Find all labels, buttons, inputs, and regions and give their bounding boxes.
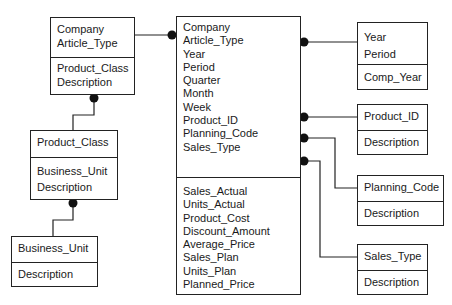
measure-attribute: Product_Cost (183, 212, 294, 225)
attribute: Description (37, 179, 111, 195)
entity-article-type[interactable]: Company Article_Type Product_Class Descr… (50, 17, 135, 95)
entity-attributes: Description (358, 270, 427, 293)
entity-attributes: Description (358, 201, 443, 224)
connector-article-type-product-class (73, 98, 94, 130)
key-attribute: Product_ID (183, 114, 294, 127)
key-attribute: Period (183, 61, 294, 74)
entity-measures: Sales_Actual Units_Actual Product_Cost D… (177, 177, 300, 294)
key-attribute: Year (183, 48, 294, 61)
key-attribute: Article_Type (183, 34, 294, 47)
connector-fact-sales-type (304, 161, 357, 257)
entity-keys: Company Article_Type (51, 18, 134, 57)
entity-keys: Product_ID (358, 105, 427, 130)
measure-attribute: Units_Actual (183, 198, 294, 211)
key-attribute: Product_ID (364, 110, 421, 124)
key-attribute: Company (57, 23, 128, 37)
entity-attributes: Business_Unit Description (31, 157, 117, 198)
measure-attribute: Planned_Price (183, 278, 294, 291)
measure-attribute: Discount_Amount (183, 225, 294, 238)
entity-planning-code[interactable]: Planning_Code Description (357, 175, 444, 226)
measure-attribute: Sales_Plan (183, 251, 294, 264)
key-attribute: Business_Unit (18, 242, 91, 256)
attribute: Description (364, 276, 421, 290)
key-attribute: Sales_Type (364, 250, 421, 264)
attribute: Business_Unit (37, 163, 111, 179)
entity-keys: Business_Unit (12, 237, 97, 262)
entity-business-unit[interactable]: Business_Unit Description (11, 236, 98, 287)
entity-sales-type[interactable]: Sales_Type Description (357, 244, 428, 295)
key-attribute: Year (364, 29, 421, 46)
key-attribute: Planning_Code (183, 127, 294, 140)
key-attribute: Month (183, 87, 294, 100)
entity-attributes: Comp_Year (358, 64, 427, 88)
entity-attributes: Product_Class Description (51, 57, 134, 92)
key-attribute: Company (183, 21, 294, 34)
key-attribute: Week (183, 101, 294, 114)
attribute: Description (18, 268, 91, 282)
measure-attribute: Sales_Actual (183, 185, 294, 198)
entity-keys: Sales_Type (358, 245, 427, 270)
attribute: Description (57, 76, 128, 90)
measure-attribute: Average_Price (183, 238, 294, 251)
key-attribute: Article_Type (57, 37, 128, 51)
connector-product-class-business-unit (53, 203, 73, 236)
entity-keys: Product_Class (31, 131, 117, 157)
entity-product[interactable]: Product_ID Description (357, 104, 428, 155)
entity-attributes: Description (358, 130, 427, 153)
entity-attributes: Description (12, 262, 97, 285)
attribute: Description (364, 136, 421, 150)
attribute: Description (364, 207, 437, 221)
key-attribute: Period (364, 46, 421, 63)
entity-period[interactable]: Year Period Comp_Year (357, 22, 428, 90)
connector-fact-planning-code (304, 138, 357, 188)
key-attribute: Product_Class (37, 136, 111, 150)
entity-keys: Year Period (358, 23, 427, 64)
entity-fact-table[interactable]: Company Article_Type Year Period Quarter… (176, 16, 301, 295)
attribute: Product_Class (57, 62, 128, 76)
key-attribute: Planning_Code (364, 181, 437, 195)
measure-attribute: Units_Plan (183, 265, 294, 278)
key-attribute: Quarter (183, 74, 294, 87)
entity-keys: Company Article_Type Year Period Quarter… (177, 17, 300, 177)
entity-keys: Planning_Code (358, 176, 443, 201)
key-attribute: Sales_Type (183, 141, 294, 154)
attribute: Comp_Year (364, 71, 421, 85)
entity-product-class[interactable]: Product_Class Business_Unit Description (30, 130, 118, 200)
